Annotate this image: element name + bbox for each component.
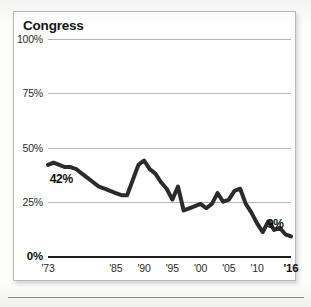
value-callout-9: 9% [267,217,284,231]
xtick-label-2005: '05 [222,262,235,274]
page-rule-divider [8,297,304,298]
xtick-label-1973: '73 [41,262,54,274]
series-line-congress [48,39,291,256]
ytick-label-75: 75% [23,87,43,99]
chart-panel: Congress 100% 75% 50% 25% 0% '73 '85 '90… [13,11,296,281]
xtick-label-2016: '16 [284,262,299,274]
ytick-label-0: 0% [27,250,43,262]
xtick-label-2010: '10 [251,262,264,274]
chart-title: Congress [23,18,84,33]
plot-area: 100% 75% 50% 25% 0% '73 '85 '90 '95 '00 … [48,39,291,256]
ytick-label-50: 50% [23,142,43,154]
gridline-0-baseline: 0% [48,256,291,258]
xtick-label-2000: '00 [194,262,207,274]
xtick-label-1995: '95 [166,262,179,274]
xtick-label-1985: '85 [109,262,122,274]
xtick-label-1990: '90 [138,262,151,274]
value-callout-42: 42% [50,172,73,186]
ytick-label-100: 100% [17,33,43,45]
ytick-label-25: 25% [23,196,43,208]
figure-root: Congress 100% 75% 50% 25% 0% '73 '85 '90… [0,0,311,307]
